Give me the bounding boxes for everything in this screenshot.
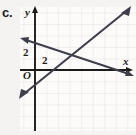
y-axis-tick-label-2: 2	[23, 47, 29, 58]
grid-lines	[20, 7, 136, 131]
x-axis-tick-label-2: 2	[42, 55, 48, 66]
part-label: c.	[2, 6, 12, 19]
y-axis-label: y	[25, 7, 30, 18]
origin-label: O	[23, 70, 31, 81]
graph-figure: c. y x O 2 2	[0, 0, 136, 135]
coordinate-plane-svg	[0, 0, 136, 135]
x-axis-label: x	[123, 56, 129, 67]
